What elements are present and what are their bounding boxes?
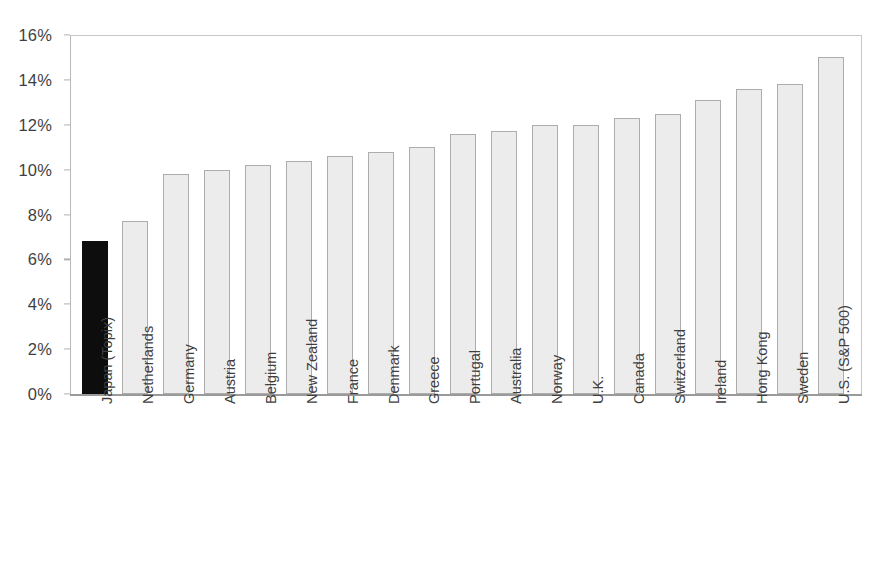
bar-slot: [402, 35, 443, 394]
x-axis-label-slot: France: [320, 400, 361, 550]
bar-slot: [197, 35, 238, 394]
bar[interactable]: [777, 84, 803, 394]
bar-slot: [156, 35, 197, 394]
x-axis-label-slot: Norway: [524, 400, 565, 550]
y-axis-tick-label: 4%: [28, 295, 52, 314]
x-axis-label-slot: Austria: [197, 400, 238, 550]
x-axis-label-slot: Denmark: [361, 400, 402, 550]
x-axis-tick-label: Hong Kong: [755, 331, 770, 404]
x-axis-tick-label: Sweden: [796, 352, 811, 404]
y-axis-tick-label: 8%: [28, 205, 52, 224]
bar-slot: [361, 35, 402, 394]
x-axis-tick-label: Portugal: [468, 350, 483, 404]
x-axis-tick-label: Austria: [223, 359, 238, 404]
y-axis-tick-label: 0%: [28, 385, 52, 404]
bar-slot: [688, 35, 729, 394]
x-axis-tick-label: U.S. (S&P 500): [837, 305, 852, 404]
x-axis-tick-label: Australia: [509, 348, 524, 404]
bar-slot: [770, 35, 811, 394]
bar-slot: [442, 35, 483, 394]
y-axis-tick-label: 10%: [18, 160, 52, 179]
bar[interactable]: [573, 125, 599, 394]
bar-chart-figure: 0%2%4%6%8%10%12%14%16% Japan (Topix)Neth…: [0, 0, 894, 571]
bar-slot: [565, 35, 606, 394]
x-axis-label-slot: Hong Kong: [729, 400, 770, 550]
x-axis-label-slot: Germany: [156, 400, 197, 550]
x-axis-tick-label: Greece: [427, 356, 442, 404]
x-axis-tick-label: Norway: [550, 355, 565, 404]
bar-slot: [320, 35, 361, 394]
x-axis-tick-label: Denmark: [387, 345, 402, 404]
x-axis-tick-label: New Zealand: [305, 319, 320, 404]
x-axis-tick-label: Belgium: [264, 352, 279, 404]
x-axis-tick-label: Ireland: [714, 360, 729, 404]
x-axis-label-slot: Sweden: [770, 400, 811, 550]
x-axis-label-slot: Belgium: [238, 400, 279, 550]
y-axis-tick-label: 6%: [28, 250, 52, 269]
y-axis-tick-label: 16%: [18, 26, 52, 45]
bar-slot: [483, 35, 524, 394]
x-axis-label-slot: Greece: [402, 400, 443, 550]
bar-slot: [606, 35, 647, 394]
x-axis-label-slot: Australia: [483, 400, 524, 550]
x-axis-label-slot: Japan (Topix): [74, 400, 115, 550]
y-axis-tick-label: 2%: [28, 340, 52, 359]
x-axis-label-slot: U.S. (S&P 500): [811, 400, 852, 550]
x-axis-label-slot: Ireland: [688, 400, 729, 550]
x-axis-tick-label: Switzerland: [673, 329, 688, 404]
x-axis-tick-label: Japan (Topix): [100, 317, 115, 404]
bar[interactable]: [532, 125, 558, 394]
x-axis-label-slot: New Zealand: [279, 400, 320, 550]
x-axis-tick-label: U.K.: [591, 376, 606, 404]
x-axis-label-slot: Switzerland: [647, 400, 688, 550]
bar-slot: [238, 35, 279, 394]
x-axis-tick-label: Netherlands: [141, 326, 156, 404]
x-axis-tick-label: Canada: [632, 353, 647, 404]
y-axis-tick-label: 14%: [18, 70, 52, 89]
y-axis-tick-label: 12%: [18, 115, 52, 134]
bars-layer: [70, 35, 862, 394]
x-axis-tick-label: France: [346, 359, 361, 404]
x-axis-tick-label: Germany: [182, 344, 197, 404]
x-axis-label-slot: Netherlands: [115, 400, 156, 550]
x-axis-label-slot: Portugal: [442, 400, 483, 550]
x-axis-label-slot: U.K.: [565, 400, 606, 550]
x-axis-category-labels: Japan (Topix)NetherlandsGermanyAustriaBe…: [70, 400, 862, 550]
y-axis: 0%2%4%6%8%10%12%14%16%: [0, 0, 62, 571]
x-axis-label-slot: Canada: [606, 400, 647, 550]
bar[interactable]: [695, 100, 721, 394]
bar-slot: [524, 35, 565, 394]
